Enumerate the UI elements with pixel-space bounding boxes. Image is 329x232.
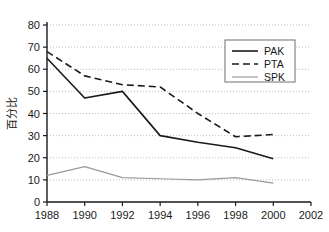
x-tick-label: 2000 [261,209,285,221]
x-tick-label: 1994 [148,209,172,221]
y-axis-ticks: 01020304050607080 [28,19,47,208]
series-line-spk [47,167,273,184]
line-chart: 0102030405060708019881990199219941996199… [0,0,329,232]
y-tick-label: 80 [28,19,40,31]
chart-container: 0102030405060708019881990199219941996199… [0,0,329,232]
x-tick-label: 1996 [186,209,210,221]
x-tick-label: 1990 [72,209,96,221]
y-tick-label: 40 [28,108,40,120]
x-axis-ticks: 19881990199219941996199820002002 [35,202,323,221]
x-tick-label: 1988 [35,209,59,221]
x-tick-label: 1992 [110,209,134,221]
y-tick-label: 20 [28,152,40,164]
y-tick-label: 50 [28,85,40,97]
x-tick-label: 2002 [299,209,323,221]
y-tick-label: 60 [28,63,40,75]
y-tick-label: 30 [28,130,40,142]
x-tick-label: 1998 [223,209,247,221]
legend: PAKPTASPK [225,40,295,83]
y-tick-label: 0 [34,196,40,208]
legend-label-spk: SPK [264,71,285,83]
legend-label-pta: PTA [264,58,284,70]
y-tick-label: 10 [28,174,40,186]
y-tick-label: 70 [28,41,40,53]
legend-label-pak: PAK [264,45,284,57]
y-axis-title: 百分比 [6,97,18,130]
